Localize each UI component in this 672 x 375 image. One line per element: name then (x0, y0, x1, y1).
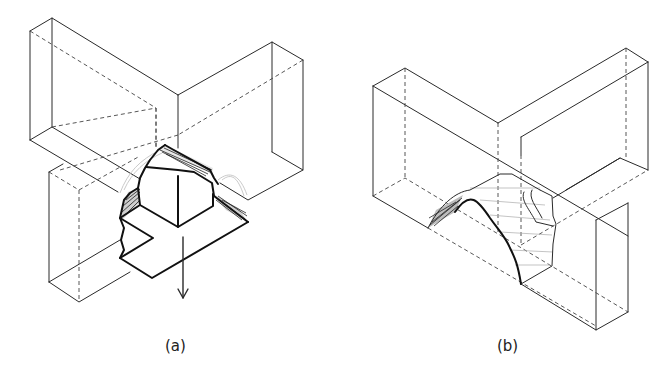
panel-b-front-wall (373, 68, 628, 330)
panel-b-back-wall (498, 48, 648, 245)
panel-a-right-wall (60, 42, 303, 200)
panel-a-caption: (a) (165, 339, 186, 354)
panel-b-arch-surface (428, 174, 556, 284)
panel-a-left-wall (30, 18, 178, 192)
panel-b-drawing (373, 48, 648, 330)
panel-b-caption: (b) (497, 339, 518, 354)
panel-a-drawing (30, 18, 303, 302)
figure (0, 0, 672, 375)
